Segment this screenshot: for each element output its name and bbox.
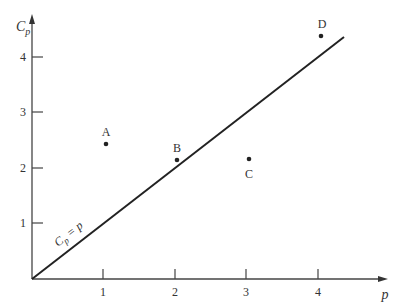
svg-text:C: C (245, 167, 253, 181)
x-tick-label: 2 (172, 285, 178, 299)
chart: 1 2 3 4 1 2 3 4 Cp p Cp = p A B C D (0, 0, 395, 307)
x-axis-label: p (381, 287, 389, 302)
data-point-b: B (173, 141, 181, 162)
x-tick-label: 3 (243, 285, 249, 299)
y-tick-label: 3 (20, 105, 26, 119)
reference-line (32, 37, 344, 279)
reference-line-label: Cp = p (51, 218, 87, 251)
x-tick-label: 1 (100, 285, 106, 299)
y-tick-label: 1 (20, 216, 26, 230)
y-axis-label: Cp (16, 19, 30, 37)
data-point-a: A (102, 125, 111, 146)
y-axis-arrow-icon (29, 14, 35, 24)
x-ticks (103, 269, 318, 279)
x-tick-label: 4 (315, 285, 321, 299)
y-ticks (32, 57, 43, 223)
svg-text:D: D (318, 17, 327, 31)
data-point-c: C (245, 157, 253, 181)
svg-text:B: B (173, 141, 181, 155)
x-axis-arrow-icon (378, 276, 388, 282)
svg-text:A: A (102, 125, 111, 139)
data-point-d: D (318, 17, 327, 38)
y-tick-label: 2 (20, 161, 26, 175)
y-tick-label: 4 (20, 50, 26, 64)
